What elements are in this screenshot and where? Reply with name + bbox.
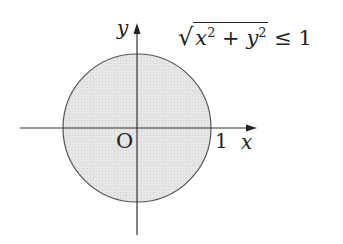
sqrt-symbol: √ xyxy=(178,23,193,51)
diagram-canvas: y x O 1 √x2 + y2 ≤ 1 xyxy=(0,0,343,244)
leq-sign: ≤ xyxy=(268,26,299,50)
region-inequality: √x2 + y2 ≤ 1 xyxy=(178,22,312,52)
var-x: x xyxy=(195,26,207,50)
sqrt-radicand: x2 + y2 xyxy=(193,22,267,49)
x-tick-label-1: 1 xyxy=(215,131,228,151)
y-axis-label: y xyxy=(117,18,128,38)
plus-sign: + xyxy=(215,26,246,50)
origin-label: O xyxy=(116,131,133,152)
rhs-value: 1 xyxy=(298,26,311,50)
var-y: y xyxy=(246,26,258,50)
x-axis-label: x xyxy=(241,132,252,152)
y-axis-arrow-icon xyxy=(134,23,141,34)
exp-y: 2 xyxy=(258,25,266,40)
